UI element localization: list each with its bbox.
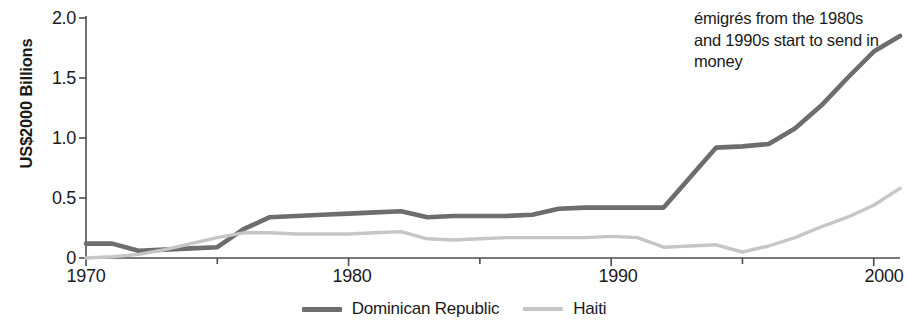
legend-label-haiti: Haiti (573, 299, 606, 319)
legend-swatch-dominican-republic (302, 307, 342, 312)
x-axis-ticks (86, 258, 874, 266)
legend-item-dominican-republic[interactable]: Dominican Republic (302, 299, 500, 319)
y-axis-ticks (79, 18, 86, 258)
legend-swatch-haiti (523, 307, 563, 311)
legend-item-haiti[interactable]: Haiti (523, 299, 606, 319)
chart-annotation: émigrés from the 1980s and 1990s start t… (694, 8, 879, 73)
chart-figure: US$2000 Billions 2.0 1.5 1.0 0.5 0 1970 … (0, 0, 908, 327)
chart-legend: Dominican Republic Haiti (0, 299, 908, 319)
legend-label-dominican-republic: Dominican Republic (352, 299, 500, 319)
